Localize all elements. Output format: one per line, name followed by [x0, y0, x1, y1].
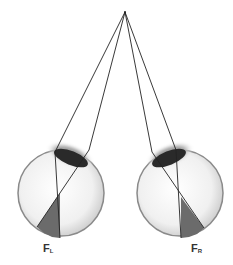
binocular-diagram: [0, 0, 233, 265]
left-eye: [18, 136, 104, 238]
right-fovea-label: FR: [191, 243, 202, 254]
left-fovea-label: FL: [43, 243, 53, 254]
fixation-point: [124, 11, 126, 13]
